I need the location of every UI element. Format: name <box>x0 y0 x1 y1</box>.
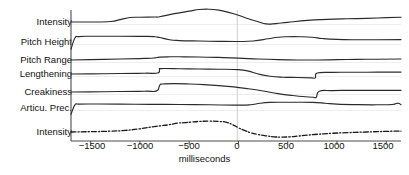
series-line-creakiness <box>71 84 401 98</box>
series-line-lengthening <box>71 69 401 79</box>
plot-area <box>0 0 409 175</box>
series-line-intensity <box>71 9 401 24</box>
x-axis-ticks <box>91 141 387 145</box>
series-line-pitch-range <box>71 57 401 60</box>
series-line-pitch-height <box>71 36 401 49</box>
series-line-articu-prec <box>71 102 401 114</box>
series-lines <box>71 9 401 137</box>
chart-figure: Intensity Pitch Height Pitch Range Lengt… <box>0 0 409 175</box>
row-baseline-guides <box>71 25 401 111</box>
series-line-intensity-bottom <box>71 121 401 137</box>
